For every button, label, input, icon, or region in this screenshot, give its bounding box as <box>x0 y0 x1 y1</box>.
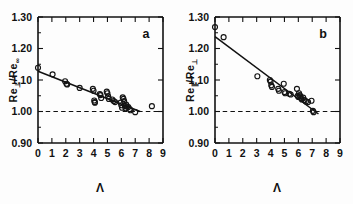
data-point <box>281 81 286 86</box>
y-title-sub2-b: ⊥ <box>190 58 199 65</box>
x-tick-label: 7 <box>132 147 138 159</box>
x-tick-label: 9 <box>160 147 166 159</box>
panel-label-b: b <box>319 27 327 41</box>
panel-label-a: a <box>143 27 151 41</box>
x-tick-label: 8 <box>146 147 152 159</box>
x-tick-label: 6 <box>295 147 301 159</box>
x-tick-label: 2 <box>240 147 246 159</box>
x-tick-label: 5 <box>105 147 111 159</box>
data-points-b <box>213 25 317 115</box>
x-axis-title-a: Λ <box>96 181 104 195</box>
y-title-base-a: Re <box>7 88 19 103</box>
y-tick-label: 1.00 <box>12 105 33 117</box>
x-tick-label: 4 <box>91 147 97 159</box>
y-tick-label: 1.20 <box>189 42 210 54</box>
data-point <box>50 72 55 77</box>
data-point <box>149 104 154 109</box>
data-points-a <box>36 65 155 114</box>
y-tick-label: 1.20 <box>12 42 33 54</box>
x-tick-label: 8 <box>323 147 329 159</box>
x-tick-label: 3 <box>77 147 83 159</box>
x-tick-label: 1 <box>49 147 55 159</box>
y-tick-label: 1.00 <box>189 105 210 117</box>
y-tick-label: 0.90 <box>189 137 210 149</box>
y-tick-label: 1.30 <box>189 11 210 23</box>
y-title-mid-a: /Re <box>7 63 19 81</box>
scatter-plot-a: 0.901.001.101.201.30 0123456789 a Λ Re⊥/… <box>0 0 176 204</box>
chart-panel-a: 0.901.001.101.201.30 0123456789 a Λ Re⊥/… <box>0 0 176 204</box>
y-title-mid-b: /Re <box>184 65 196 83</box>
x-tick-label: 2 <box>63 147 69 159</box>
x-axis-title-b: Λ <box>273 181 281 195</box>
y-tick-label: 0.90 <box>12 137 33 149</box>
x-tick-labels-a: 0123456789 <box>35 147 166 159</box>
data-point <box>255 74 260 79</box>
y-tick-label: 1.30 <box>12 11 33 23</box>
x-tick-label: 7 <box>309 147 315 159</box>
scatter-plot-b: 0.901.001.101.201.30 0123456789 b Λ Re∥/… <box>177 0 353 204</box>
y-title-base-b: Re <box>184 87 196 102</box>
x-tick-labels-b: 0123456789 <box>212 147 343 159</box>
x-tick-label: 0 <box>212 147 218 159</box>
x-tick-label: 0 <box>35 147 41 159</box>
x-tick-label: 3 <box>254 147 260 159</box>
chart-panel-b: 0.901.001.101.201.30 0123456789 b Λ Re∥/… <box>177 0 353 204</box>
x-tick-label: 4 <box>268 147 274 159</box>
x-tick-label: 5 <box>282 147 288 159</box>
figure-container: 0.901.001.101.201.30 0123456789 a Λ Re⊥/… <box>0 0 353 204</box>
x-tick-label: 9 <box>337 147 343 159</box>
data-point <box>221 35 226 40</box>
x-tick-label: 1 <box>226 147 232 159</box>
y-title-sub2-a: ∞ <box>13 57 22 63</box>
x-tick-label: 6 <box>118 147 124 159</box>
